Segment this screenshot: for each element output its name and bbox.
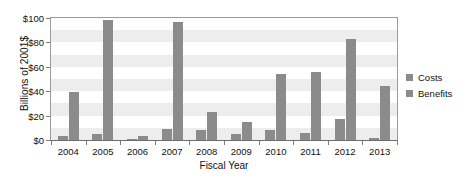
bar-group	[86, 18, 121, 140]
bar-costs-2010	[265, 130, 275, 140]
y-axis-title: Billions of 2001$	[19, 4, 30, 144]
bar-costs-2008	[196, 130, 206, 140]
bar-costs-2013	[369, 138, 379, 140]
x-axis-tick	[120, 141, 121, 145]
x-axis-tick-label: 2005	[92, 146, 113, 157]
y-axis-tick-label: $40	[28, 86, 44, 97]
bar-group	[362, 18, 397, 140]
bar-costs-2007	[162, 129, 172, 140]
bar-group	[51, 18, 86, 140]
x-axis-tick-label: 2013	[369, 146, 390, 157]
x-axis-tick	[397, 141, 398, 145]
x-axis-tick	[293, 141, 294, 145]
bar-costs-2004	[58, 136, 68, 140]
y-axis-tick-label: $100	[23, 13, 44, 24]
bar-group	[259, 18, 294, 140]
x-axis-tick	[189, 141, 190, 145]
bar-benefits-2008	[207, 112, 217, 140]
chart-figure: Billions of 2001$ $0$20$40$60$80$100 200…	[0, 0, 473, 183]
y-axis-tick-label: $60	[28, 61, 44, 72]
bar-costs-2012	[335, 119, 345, 140]
x-axis-tick-label: 2007	[162, 146, 183, 157]
legend-item-label: Benefits	[418, 88, 452, 99]
bar-benefits-2010	[276, 74, 286, 140]
x-axis-tick	[51, 141, 52, 145]
bar-group	[120, 18, 155, 140]
x-axis-tick	[155, 141, 156, 145]
legend-swatch-icon	[406, 74, 413, 81]
legend-item-costs: Costs	[406, 71, 452, 84]
legend-swatch-icon	[406, 90, 413, 97]
bar-benefits-2012	[346, 39, 356, 140]
x-axis-tick-label: 2004	[58, 146, 79, 157]
bar-group	[189, 18, 224, 140]
x-axis-tick-label: 2008	[196, 146, 217, 157]
y-axis-tick-label: $80	[28, 37, 44, 48]
x-axis-tick-label: 2006	[127, 146, 148, 157]
x-axis-tick	[259, 141, 260, 145]
x-axis-tick-label: 2009	[231, 146, 252, 157]
bar-costs-2009	[231, 134, 241, 140]
bar-group	[293, 18, 328, 140]
bar-benefits-2011	[311, 72, 321, 140]
x-axis-tick-label: 2011	[300, 146, 320, 157]
chart-legend: CostsBenefits	[406, 71, 452, 103]
x-axis-tick-label: 2012	[335, 146, 356, 157]
x-axis-tick	[362, 141, 363, 145]
bar-costs-2006	[127, 139, 137, 140]
bar-benefits-2005	[103, 20, 113, 140]
bar-group	[224, 18, 259, 140]
x-axis-tick	[224, 141, 225, 145]
bar-costs-2011	[300, 133, 310, 140]
bar-group	[155, 18, 190, 140]
bar-benefits-2004	[69, 92, 79, 140]
bar-series-container	[51, 18, 397, 140]
y-axis-tick-label: $0	[33, 135, 44, 146]
bar-costs-2005	[92, 134, 102, 140]
legend-item-label: Costs	[418, 72, 442, 83]
legend-item-benefits: Benefits	[406, 87, 452, 100]
x-axis-title: Fiscal Year	[0, 160, 448, 171]
bar-benefits-2006	[138, 136, 148, 140]
bar-benefits-2009	[242, 122, 252, 140]
plot-area	[50, 17, 398, 141]
bar-benefits-2013	[380, 86, 390, 140]
y-axis-tick-label: $20	[28, 110, 44, 121]
x-axis-tick	[328, 141, 329, 145]
bar-group	[328, 18, 363, 140]
bar-benefits-2007	[173, 22, 183, 140]
x-axis-tick	[86, 141, 87, 145]
x-axis-tick-label: 2010	[265, 146, 286, 157]
